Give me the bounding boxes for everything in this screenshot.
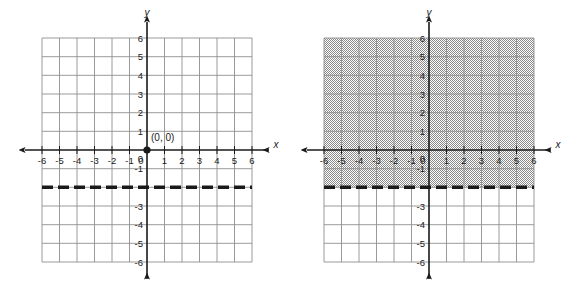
y-tick: 2	[420, 107, 425, 118]
x-tick: 4	[214, 155, 219, 166]
x-tick: -2	[390, 155, 398, 166]
y-tick: 6	[138, 33, 143, 44]
y-tick: 3	[420, 89, 425, 100]
x-tick: 6	[531, 155, 536, 166]
y-tick: 1	[138, 126, 143, 137]
x-tick: -1	[407, 155, 415, 166]
x-tick: -6	[38, 155, 46, 166]
y-tick: -3	[135, 201, 143, 212]
y-tick: 3	[138, 89, 143, 100]
y-tick: -1	[135, 163, 143, 174]
x-tick: 5	[514, 155, 519, 166]
y-tick: -4	[417, 219, 425, 230]
x-tick: -5	[55, 155, 63, 166]
x-tick: -3	[90, 155, 98, 166]
x-axis-label: x	[273, 139, 280, 150]
y-tick: -1	[417, 163, 425, 174]
x-tick: -2	[108, 155, 116, 166]
x-tick: -4	[355, 155, 363, 166]
y-tick: -5	[135, 238, 143, 249]
y-tick: 1	[420, 126, 425, 137]
y-tick: -3	[417, 201, 425, 212]
x-tick: -3	[372, 155, 380, 166]
y-tick: -4	[135, 219, 143, 230]
x-tick: 2	[461, 155, 466, 166]
y-tick: 6	[420, 33, 425, 44]
y-tick: 4	[420, 70, 425, 81]
x-tick: 1	[162, 155, 167, 166]
x-tick: 2	[179, 155, 184, 166]
y-tick: 5	[420, 51, 425, 62]
y-axis-label: y	[144, 7, 151, 18]
x-tick: -4	[73, 155, 81, 166]
y-tick: 2	[138, 107, 143, 118]
origin-point	[143, 146, 150, 153]
x-tick: -6	[320, 155, 328, 166]
two-graph-figure: -6 -5 -4 -3 -2 -1 0 1 2 3 4 5 6 6 5 4 3 …	[0, 0, 583, 286]
y-axis-label: y	[426, 7, 433, 18]
y-tick: -6	[135, 257, 143, 268]
x-tick: 5	[232, 155, 237, 166]
x-tick: 3	[479, 155, 484, 166]
y-tick: -6	[417, 257, 425, 268]
left-graph-panel: -6 -5 -4 -3 -2 -1 0 1 2 3 4 5 6 6 5 4 3 …	[0, 0, 292, 286]
x-tick: 1	[444, 155, 449, 166]
x-tick: 3	[197, 155, 202, 166]
right-graph-panel: -6 -5 -4 -3 -2 -1 0 1 2 3 4 5 6 6 5 4 3 …	[292, 0, 583, 286]
x-axis-label: x	[555, 139, 562, 150]
x-tick: -1	[125, 155, 133, 166]
y-tick: 4	[138, 70, 143, 81]
x-tick: 6	[249, 155, 254, 166]
y-tick: -5	[417, 238, 425, 249]
y-tick: 5	[138, 51, 143, 62]
x-tick: -5	[337, 155, 345, 166]
origin-label: (0, 0)	[151, 132, 174, 143]
x-tick: 4	[496, 155, 501, 166]
